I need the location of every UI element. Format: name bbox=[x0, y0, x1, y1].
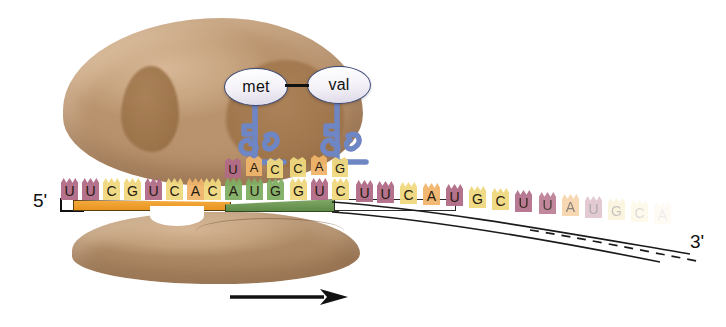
mrna-base: U bbox=[377, 181, 394, 203]
translation-diagram: met val UACCAG UUCGUCACAUGGUCUUCAUGCUUAU… bbox=[0, 0, 726, 327]
mrna-base-letter: A bbox=[191, 183, 200, 199]
mrna-base: A bbox=[187, 178, 204, 200]
mrna-base: G bbox=[290, 178, 307, 200]
mrna-base: U bbox=[145, 178, 162, 200]
mrna-base-letter: G bbox=[472, 191, 483, 207]
peptide-bond bbox=[285, 84, 309, 87]
large-subunit-cleft bbox=[121, 66, 179, 152]
mrna-base-letter: C bbox=[495, 193, 505, 209]
anticodon-base-letter: U bbox=[228, 162, 237, 177]
mrna-base: U bbox=[356, 180, 373, 202]
mrna-base-letter: A bbox=[566, 199, 575, 215]
mrna-base: A bbox=[562, 194, 579, 216]
mrna-base-letter: U bbox=[148, 183, 158, 199]
mrna-base-letter: U bbox=[85, 183, 95, 199]
mrna-base: C bbox=[332, 178, 349, 200]
anticodon-base: U bbox=[225, 158, 241, 178]
mrna-base-letter: G bbox=[293, 183, 304, 199]
mrna-base-letter: U bbox=[380, 186, 390, 202]
amino-acid-met: met bbox=[224, 68, 288, 106]
mrna-base: G bbox=[469, 186, 486, 208]
mrna-base-letter: C bbox=[106, 183, 116, 199]
amino-acid-val-label: val bbox=[328, 76, 349, 94]
anticodon-base-letter: A bbox=[315, 159, 324, 174]
mrna-base: C bbox=[631, 200, 648, 222]
mrna-base-letter: U bbox=[518, 195, 528, 211]
mrna-base: C bbox=[166, 178, 183, 200]
trna-val bbox=[318, 100, 404, 174]
anticodon-base-letter: C bbox=[270, 162, 279, 177]
mrna-base-letter: C bbox=[335, 183, 345, 199]
anticodon-base-letter: C bbox=[293, 161, 302, 176]
mrna-base: C bbox=[400, 182, 417, 204]
mrna-base-letter: U bbox=[449, 189, 459, 205]
mrna-base-letter: A bbox=[229, 183, 238, 199]
small-subunit-notch bbox=[150, 206, 204, 226]
mrna-base: U bbox=[515, 190, 532, 212]
anticodon-base: A bbox=[311, 155, 327, 175]
anticodon-base-letter: A bbox=[250, 160, 259, 175]
three-prime-label: 3' bbox=[690, 231, 704, 253]
mrna-base: G bbox=[608, 198, 625, 220]
mrna-base: U bbox=[61, 178, 78, 200]
anticodon-base: G bbox=[332, 157, 348, 177]
anticodon-base-letter: G bbox=[335, 161, 345, 176]
amino-acid-met-label: met bbox=[242, 78, 269, 96]
mrna-base: A bbox=[654, 202, 671, 224]
mrna-base-letter: U bbox=[249, 183, 259, 199]
mrna-base-letter: U bbox=[314, 183, 324, 199]
mrna-base-letter: U bbox=[542, 197, 552, 213]
mrna-base-letter: C bbox=[169, 183, 179, 199]
mrna-base-letter: G bbox=[127, 183, 138, 199]
mrna-base-letter: A bbox=[658, 207, 667, 223]
mrna-base: C bbox=[103, 178, 120, 200]
anticodon-base: A bbox=[246, 156, 262, 176]
amino-acid-val: val bbox=[307, 66, 371, 104]
mrna-base: C bbox=[492, 188, 509, 210]
mrna-base: U bbox=[585, 196, 602, 218]
mrna-base: A bbox=[423, 183, 440, 205]
mrna-base-letter: C bbox=[403, 187, 413, 203]
direction-arrow bbox=[228, 287, 350, 311]
mrna-base: U bbox=[246, 178, 263, 200]
mrna-base-letter: C bbox=[634, 205, 644, 221]
anticodon-base: C bbox=[290, 157, 306, 177]
five-prime-label: 5' bbox=[33, 190, 47, 212]
mrna-base: U bbox=[82, 178, 99, 200]
mrna-base-letter: G bbox=[270, 183, 281, 199]
anticodon-base: C bbox=[267, 158, 283, 178]
mrna-base: C bbox=[204, 178, 221, 200]
mrna-base-letter: G bbox=[611, 203, 622, 219]
mrna-base-letter: A bbox=[427, 188, 436, 204]
mrna-base-letter: U bbox=[359, 185, 369, 201]
mrna-base: U bbox=[311, 178, 328, 200]
mrna-start-codon-segment bbox=[225, 199, 339, 212]
mrna-base: G bbox=[267, 178, 284, 200]
mrna-base-letter: U bbox=[588, 201, 598, 217]
mrna-base-letter: U bbox=[64, 183, 74, 199]
mrna-base: U bbox=[539, 192, 556, 214]
mrna-base: U bbox=[446, 184, 463, 206]
mrna-base-letter: C bbox=[207, 183, 217, 199]
mrna-base: A bbox=[225, 178, 242, 200]
mrna-base: G bbox=[124, 178, 141, 200]
